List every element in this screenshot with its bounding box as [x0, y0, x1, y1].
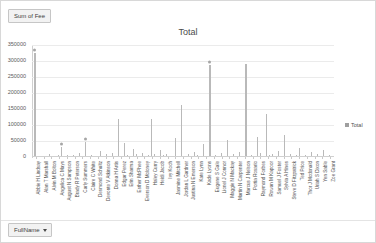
x-axis-tick-label: Samuel J Foster	[278, 161, 283, 194]
x-axis-tick	[75, 157, 76, 159]
x-axis-tick-label: Jordan L Gardner	[185, 161, 190, 197]
x-axis-tick	[59, 157, 60, 159]
x-axis-tick-label: Everson D Moloney	[146, 161, 151, 201]
data-point-stem	[284, 135, 285, 157]
x-axis-tick-label: Raymond Forbes	[262, 161, 267, 196]
x-axis-tick-label: Carly Summers	[84, 161, 89, 193]
x-axis-tick-label: Yen Sable	[324, 161, 329, 182]
x-axis-tick-label: Rowan M Kapoor	[270, 161, 275, 197]
gridline	[32, 109, 334, 110]
x-axis-tick	[315, 157, 316, 159]
x-axis-tick-label: Claire C White	[92, 161, 97, 191]
gridline	[32, 125, 334, 126]
x-axis-tick-label: Edgar Perez	[123, 161, 128, 187]
gridline	[32, 77, 334, 78]
legend: Total	[345, 122, 363, 128]
x-axis-tick-label: August N Sampson	[68, 161, 73, 201]
gridline	[32, 45, 334, 46]
x-axis-tick	[129, 157, 130, 159]
x-axis-tick-label: Martin N Carpenter	[239, 161, 244, 200]
x-axis-tick	[160, 157, 161, 159]
data-point-marker	[84, 137, 87, 140]
data-point-stem	[85, 142, 86, 157]
x-axis-tick-label: Sylvia A Hines	[285, 161, 290, 190]
chart-window: Sum of Fee Total 05000010000015000020000…	[0, 0, 376, 243]
data-point-stem	[181, 105, 182, 157]
x-axis-tick	[113, 157, 114, 159]
x-axis-tick	[253, 157, 254, 159]
x-axis-tick-label: Kade Lyons	[208, 161, 213, 185]
x-axis-tick-label: Eugene S Gale	[216, 161, 221, 192]
x-axis-tick	[144, 157, 145, 159]
chevron-down-icon	[43, 229, 47, 232]
value-field-pill[interactable]: Sum of Fee	[8, 9, 51, 23]
x-axis-tick-label: Zoe Grant	[332, 161, 337, 182]
x-axis-tick	[245, 157, 246, 159]
data-point-stem	[203, 144, 204, 157]
data-point-stem	[124, 143, 125, 157]
x-axis-tick	[284, 157, 285, 159]
data-point-stem	[245, 64, 247, 157]
data-point-stem	[209, 65, 211, 157]
plot-area	[32, 45, 334, 157]
x-axis-tick-label: Donna H Artis	[115, 161, 120, 189]
x-axis-tick	[106, 157, 107, 159]
x-axis-tick	[299, 157, 300, 159]
x-axis-tick	[198, 157, 199, 159]
x-axis-tick-label: Uriah S Dixon	[316, 161, 321, 189]
x-axis-tick-label: Ted Price	[301, 161, 306, 180]
x-axis-tick	[67, 157, 68, 159]
x-axis-tick-label: Justina N Emerson	[192, 161, 197, 200]
x-axis-tick	[191, 157, 192, 159]
x-axis-tick	[82, 157, 83, 159]
x-axis-tick-label: Thor J Mcdonald	[309, 161, 314, 195]
x-axis-tick	[276, 157, 277, 159]
data-point-stem	[227, 140, 228, 157]
x-axis-tick-label: Jasmine Mitchell	[177, 161, 182, 195]
x-axis-tick	[229, 157, 230, 159]
x-axis-tick	[330, 157, 331, 159]
x-axis-tick-label: Marcus J Nelson	[247, 161, 252, 195]
x-axis-tick	[44, 157, 45, 159]
x-axis-tick-label: Desmond Schultz	[99, 161, 104, 197]
x-axis-tick-label: Haley Curry	[154, 161, 159, 185]
x-axis-tick-label: Abbie H Lindsay	[37, 161, 42, 194]
x-axis-tick	[90, 157, 91, 159]
data-point-stem	[175, 138, 176, 157]
data-point-marker	[208, 61, 211, 64]
x-axis-tick	[183, 157, 184, 159]
x-axis-tick	[291, 157, 292, 159]
x-axis-tick	[51, 157, 52, 159]
x-axis-tick-label: Lionel J Connor	[223, 161, 228, 193]
x-axis-tick	[175, 157, 176, 159]
x-axis-tick	[98, 157, 99, 159]
x-axis-tick	[260, 157, 261, 159]
value-field-label: Sum of Fee	[14, 13, 45, 19]
x-axis-tick	[121, 157, 122, 159]
data-point-stem	[34, 53, 36, 157]
gridline	[32, 141, 334, 142]
x-axis-tick-label: Alvin M Bolton	[53, 161, 58, 190]
x-axis-tick	[168, 157, 169, 159]
gridline	[32, 61, 334, 62]
x-axis-tick	[214, 157, 215, 159]
x-axis-tick	[237, 157, 238, 159]
x-axis-tick-label: Portia Rosario	[254, 161, 259, 190]
x-axis-tick	[222, 157, 223, 159]
x-axis-tick-label: Devonte V Atkinson	[107, 161, 112, 201]
legend-label-total: Total	[351, 122, 363, 128]
x-axis-tick	[307, 157, 308, 159]
category-field-pill[interactable]: FullName	[8, 223, 52, 237]
x-axis-tick-label: Alan T Marshall	[45, 161, 50, 193]
data-point-stem	[151, 119, 152, 157]
x-axis-tick-label: Esther McPhee	[138, 161, 143, 192]
x-axis-tick	[322, 157, 323, 159]
x-axis-tick	[137, 157, 138, 159]
page-title: Total	[43, 27, 333, 37]
x-axis-tick-label: Brady R Peterson	[76, 161, 81, 197]
divider	[1, 220, 375, 221]
x-axis-tick-label: Angelica C Mays	[61, 161, 66, 195]
x-axis-tick	[268, 157, 269, 159]
x-axis-tick-label: Heidi Jacob	[161, 161, 166, 185]
x-axis-tick-label: Maggie N Mackay	[231, 161, 236, 198]
